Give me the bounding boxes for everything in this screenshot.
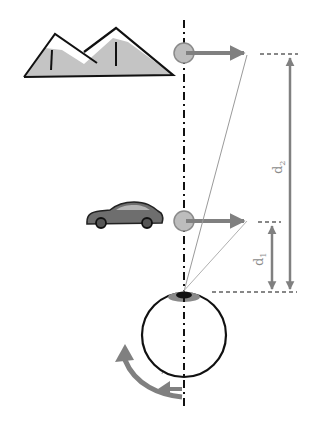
d1-label: d1 [251, 253, 268, 266]
car-icon [87, 202, 163, 228]
eye-icon [142, 292, 226, 378]
mountains-icon [24, 28, 173, 77]
diagram-canvas: d2 d1 [0, 0, 312, 425]
d2-label: d2 [270, 161, 287, 174]
